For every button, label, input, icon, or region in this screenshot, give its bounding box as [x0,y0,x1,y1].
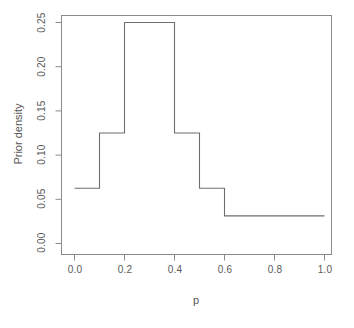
x-tick-label-5: 1.0 [313,264,337,275]
x-tick-label-2: 0.4 [163,264,187,275]
x-tick-label-4: 0.8 [263,264,287,275]
y-tick-label-1: 0.05 [36,186,47,212]
y-tick-label-0: 0.00 [36,230,47,256]
x-tick-label-3: 0.6 [213,264,237,275]
y-tick-label-2: 0.10 [36,142,47,168]
x-axis-ticks [75,255,325,261]
y-tick-label-5: 0.25 [36,10,47,36]
x-tick-label-1: 0.2 [113,264,137,275]
chart-container: 0.0 0.2 0.4 0.6 0.8 1.0 0.00 0.05 0.10 0… [0,0,354,328]
plot-frame [62,16,332,255]
x-tick-label-0: 0.0 [63,264,87,275]
y-tick-label-4: 0.20 [36,54,47,80]
x-axis-title: p [176,294,216,306]
y-axis-title: Prior density [12,94,24,174]
y-tick-label-3: 0.15 [36,98,47,124]
plot-area [0,0,354,328]
density-step-line [75,23,325,216]
y-axis-ticks [56,23,62,244]
